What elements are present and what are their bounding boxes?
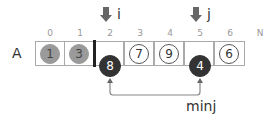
swap-connector-arrow-icon: [0, 0, 280, 120]
minj-label: minj: [186, 98, 216, 114]
